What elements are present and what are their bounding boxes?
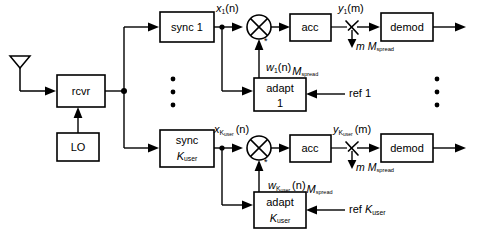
conjugate-asterisk-k: * bbox=[264, 157, 268, 167]
ref-1-label: ref 1 bbox=[349, 88, 371, 99]
wire-wk-into-mixerk bbox=[255, 160, 264, 192]
signal-label-xk: xKuser(n) bbox=[214, 124, 249, 138]
samplek-Msub: spread bbox=[376, 167, 394, 173]
x1-arg: (n) bbox=[225, 2, 238, 14]
w1-arg: (n) bbox=[278, 61, 291, 73]
wk-restrict-var: M bbox=[307, 183, 316, 195]
sample1-m: m bbox=[356, 40, 365, 52]
signal-label-w1: w1(n)Mspread bbox=[266, 62, 318, 75]
signal-label-x1: x1(n) bbox=[216, 3, 239, 16]
antenna-icon bbox=[10, 56, 56, 95]
wk-var: w bbox=[268, 179, 276, 191]
wk-restrict-sub: spread bbox=[316, 189, 333, 195]
sample-label-1: m Mspread bbox=[356, 41, 394, 53]
adapt-1-label-line1: adapt bbox=[266, 83, 294, 94]
wire-mixerk-to-acck bbox=[271, 144, 290, 153]
w1-restrict-var: M bbox=[292, 65, 301, 77]
signal-label-y1: y1(m) bbox=[338, 3, 364, 16]
acc-1-label: acc bbox=[301, 22, 318, 33]
adapt-k-sub: user bbox=[277, 217, 290, 224]
ellipsis-right-column bbox=[435, 77, 440, 108]
samplek-m: m bbox=[356, 161, 365, 173]
sync-k-label-line2: Kuser bbox=[177, 151, 198, 164]
yk-arg: (m) bbox=[355, 123, 372, 135]
lo-block-label: LO bbox=[71, 142, 86, 153]
arrow-into-mixer-1 bbox=[232, 23, 243, 32]
w1-restrict-sub: spread bbox=[301, 71, 318, 77]
wire-lo-to-rcvr bbox=[74, 107, 83, 133]
wire-w1-into-mixer1 bbox=[255, 39, 264, 78]
ellipsis-left-column bbox=[171, 77, 176, 108]
acc-k-label: acc bbox=[301, 143, 318, 154]
wire-demodk-out bbox=[433, 144, 466, 153]
y1-arg: (m) bbox=[347, 2, 364, 14]
sample1-Msub: spread bbox=[376, 46, 394, 52]
signal-label-wk: wKuser(n)Mspread bbox=[268, 180, 333, 194]
wire-refk-to-adaptk bbox=[306, 206, 345, 215]
refk-sub: user bbox=[372, 209, 385, 216]
wire-demod1-out bbox=[433, 23, 466, 32]
sync-k-label-line1: sync bbox=[176, 135, 199, 146]
wire-x1-to-adapt1 bbox=[222, 27, 253, 95]
wire-split-bottom bbox=[124, 91, 159, 152]
receiver-block-diagram: rcvr LO sync 1 sync Kuser acc acc demod … bbox=[0, 0, 477, 232]
rcvr-block-label: rcvr bbox=[72, 86, 90, 97]
wire-sampler1-to-demod1 bbox=[357, 23, 380, 32]
xk-sub2: user bbox=[224, 132, 234, 137]
yk-sub2: user bbox=[343, 132, 353, 137]
sync-k-sub: user bbox=[184, 155, 197, 162]
wire-xk-to-adaptk bbox=[222, 148, 253, 209]
wire-mixer1-to-acc1 bbox=[271, 23, 290, 32]
adapt-k-label-line2: Kuser bbox=[270, 213, 291, 226]
w1-var: w bbox=[266, 61, 274, 73]
demod-k-label: demod bbox=[390, 143, 424, 154]
wire-ref1-to-adapt1 bbox=[306, 90, 345, 99]
wk-arg: (n) bbox=[292, 179, 305, 191]
ref-k-label: ref Kuser bbox=[349, 204, 386, 217]
xk-arg: (n) bbox=[236, 123, 249, 135]
signal-label-yk: yKuser(m) bbox=[333, 124, 371, 138]
demod-1-label: demod bbox=[390, 22, 424, 33]
adapt-1-label-line2: 1 bbox=[277, 98, 283, 109]
wk-sub2: user bbox=[281, 188, 291, 193]
refk-prefix: ref bbox=[349, 203, 365, 215]
wire-samplerk-to-demodk bbox=[357, 144, 380, 153]
sample-label-k: m Mspread bbox=[356, 162, 394, 174]
adapt-k-label-line1: adapt bbox=[266, 197, 294, 208]
sync-1-label: sync 1 bbox=[171, 22, 203, 33]
conjugate-asterisk-1: * bbox=[264, 36, 268, 46]
diagram-canvas bbox=[0, 0, 477, 232]
wire-split-top bbox=[124, 23, 159, 91]
arrow-into-mixer-k bbox=[232, 144, 243, 153]
